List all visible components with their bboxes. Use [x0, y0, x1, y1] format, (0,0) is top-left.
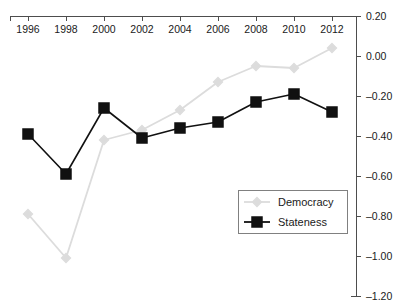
- series-stateness: [23, 89, 337, 179]
- y-axis: 0.200.00–0.20–0.40–0.60–0.80–1.00–1.20: [351, 10, 392, 302]
- data-point: [99, 135, 108, 144]
- line-chart: 199619982000200220042006200820102012 0.2…: [0, 0, 404, 307]
- x-tick-label: 2006: [206, 23, 230, 35]
- y-tick-label: –0.60: [366, 170, 392, 182]
- series-layer: [23, 43, 337, 262]
- legend-marker: [252, 197, 261, 206]
- chart-canvas: 199619982000200220042006200820102012 0.2…: [0, 0, 404, 307]
- legend-label: Stateness: [278, 216, 327, 228]
- y-tick-label: 0.20: [366, 10, 387, 22]
- data-point: [213, 117, 223, 127]
- data-point: [251, 61, 260, 70]
- data-point: [327, 43, 336, 52]
- y-tick-label: –0.20: [366, 90, 392, 102]
- data-point: [137, 133, 147, 143]
- data-point: [99, 103, 109, 113]
- y-tick-label: –1.00: [366, 250, 392, 262]
- x-tick-label: 2004: [168, 23, 192, 35]
- data-point: [23, 129, 33, 139]
- x-tick-label: 2012: [320, 23, 344, 35]
- data-point: [175, 123, 185, 133]
- x-axis: 199619982000200220042006200820102012: [10, 16, 356, 35]
- data-point: [327, 107, 337, 117]
- data-point: [251, 97, 261, 107]
- x-tick-label: 2000: [92, 23, 116, 35]
- x-tick-label: 1996: [16, 23, 40, 35]
- y-tick-label: –0.80: [366, 210, 392, 222]
- data-point: [61, 169, 71, 179]
- y-tick-label: 0.00: [366, 50, 387, 62]
- legend-label: Democracy: [278, 196, 334, 208]
- legend-item-stateness[interactable]: Stateness: [244, 216, 327, 228]
- data-point: [289, 63, 298, 72]
- data-point: [289, 89, 299, 99]
- x-tick-label: 2010: [282, 23, 306, 35]
- x-tick-label: 1998: [54, 23, 78, 35]
- y-tick-label: –1.20: [366, 290, 392, 302]
- legend-item-democracy[interactable]: Democracy: [244, 196, 334, 208]
- x-tick-label: 2002: [130, 23, 154, 35]
- y-tick-label: –0.40: [366, 130, 392, 142]
- x-tick-label: 2008: [244, 23, 268, 35]
- legend-marker: [252, 217, 262, 227]
- series-democracy: [23, 43, 336, 262]
- chart-legend: DemocracyStateness: [238, 190, 347, 233]
